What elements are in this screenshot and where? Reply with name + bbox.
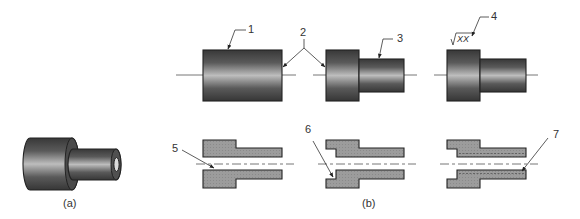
section-1 bbox=[196, 140, 294, 188]
stage-2-turned bbox=[313, 50, 417, 101]
svg-text:5: 5 bbox=[172, 142, 178, 154]
section-bottom bbox=[326, 170, 404, 188]
svg-text:4: 4 bbox=[491, 10, 497, 22]
callout-6: 6 bbox=[305, 123, 333, 177]
callout-4: 4 bbox=[472, 10, 497, 36]
callout-1: 1 bbox=[228, 23, 254, 49]
large-diameter bbox=[326, 50, 359, 101]
svg-text:6: 6 bbox=[305, 123, 311, 135]
surface-finish-symbol: XX bbox=[451, 33, 474, 45]
small-diameter bbox=[480, 59, 526, 92]
svg-text:2: 2 bbox=[300, 26, 306, 38]
callout-7: 7 bbox=[522, 128, 559, 171]
section-3 bbox=[440, 140, 538, 188]
small-diameter bbox=[359, 59, 404, 92]
callout-3: 3 bbox=[379, 32, 403, 58]
callout-2: 2 bbox=[283, 26, 325, 67]
panel-a-label: (a) bbox=[63, 197, 76, 209]
stage-1-blank bbox=[176, 50, 296, 101]
section-2 bbox=[318, 140, 416, 188]
manufacturing-process-diagram: (a) XX (b) bbox=[0, 0, 580, 219]
svg-text:3: 3 bbox=[397, 32, 403, 44]
bore-hole bbox=[114, 158, 119, 172]
stage-3-finished: XX bbox=[434, 33, 538, 101]
section-bottom bbox=[203, 170, 282, 188]
section-top bbox=[447, 140, 526, 157]
section-bottom bbox=[447, 170, 526, 188]
large-diameter bbox=[447, 50, 480, 101]
svg-text:7: 7 bbox=[553, 128, 559, 140]
surface-finish-value: XX bbox=[456, 34, 470, 44]
svg-text:1: 1 bbox=[248, 23, 254, 35]
panel-b-label: (b) bbox=[362, 197, 375, 209]
cylinder-blank bbox=[203, 50, 282, 101]
section-top bbox=[203, 140, 282, 157]
section-top bbox=[326, 140, 404, 157]
panel-a-3d-part: (a) bbox=[23, 138, 121, 209]
